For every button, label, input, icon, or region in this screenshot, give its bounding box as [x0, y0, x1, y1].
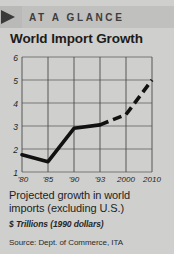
x-tick-2010: 2010	[142, 175, 161, 184]
chart-caption: Projected growth in world imports (exclu…	[9, 189, 169, 247]
x-tick-85: '85	[43, 175, 54, 184]
chart-container: 6 5 4 3 2 1 '80 '85 '90 '93 2000 2010	[0, 52, 174, 184]
triangle-right-icon	[0, 6, 22, 28]
at-a-glance-header: AT A GLANCE	[0, 6, 174, 28]
y-tick-2: 2	[12, 145, 18, 155]
caption-line-2: imports (excluding U.S.)	[9, 202, 124, 214]
y-axis-tick-labels: 6 5 4 3 2 1	[12, 53, 18, 178]
line-chart: 6 5 4 3 2 1 '80 '85 '90 '93 2000 2010	[0, 52, 174, 184]
at-a-glance-label: AT A GLANCE	[22, 12, 124, 23]
caption-main: Projected growth in world imports (exclu…	[9, 189, 169, 216]
y-tick-4: 4	[13, 99, 18, 109]
page-title: World Import Growth	[10, 31, 170, 46]
plot-background	[22, 57, 152, 172]
y-tick-3: 3	[13, 122, 18, 132]
x-tick-93: '93	[95, 175, 106, 184]
x-tick-2000: 2000	[116, 175, 135, 184]
caption-line-1: Projected growth in world	[9, 189, 130, 201]
y-tick-6: 6	[13, 53, 18, 63]
caption-source: Source: Dept. of Commerce, ITA	[9, 238, 169, 247]
x-tick-90: '90	[69, 175, 80, 184]
at-a-glance-card: AT A GLANCE World Import Growth	[0, 0, 174, 254]
caption-units: $ Trillions (1990 dollars)	[9, 219, 169, 229]
x-tick-80: '80	[18, 175, 29, 184]
x-axis-tick-labels: '80 '85 '90 '93 2000 2010	[18, 175, 162, 184]
y-tick-5: 5	[13, 76, 18, 86]
